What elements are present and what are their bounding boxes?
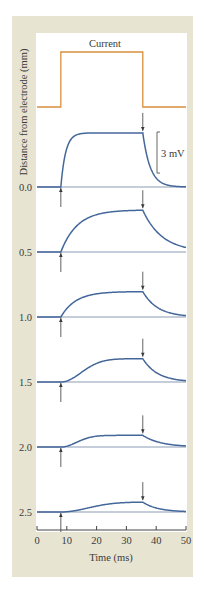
x-tick-label: 50 [181, 535, 192, 546]
scale-bar-label: 3 mV [161, 148, 185, 159]
y-tick-label: 2.0 [19, 442, 32, 453]
chart: Current 0.00.51.01.52.02.5 3 mV 01020304… [0, 0, 205, 598]
x-tick-label: 20 [91, 535, 102, 546]
y-tick-labels: 0.00.51.01.52.02.5 [19, 182, 32, 518]
y-tick-label: 1.0 [19, 312, 32, 323]
plot-area [36, 33, 187, 532]
y-tick-label: 0.5 [19, 247, 32, 258]
x-axis-label: Time (ms) [89, 552, 133, 564]
y-tick-label: 1.5 [19, 377, 32, 388]
x-tick-label: 10 [62, 535, 73, 546]
x-tick-label: 40 [151, 535, 162, 546]
y-axis-label: Distance from electrode (mm) [18, 48, 30, 175]
y-tick-label: 0.0 [19, 182, 32, 193]
y-tick-label: 2.5 [19, 507, 32, 518]
x-tick-label: 30 [121, 535, 132, 546]
x-tick-label: 0 [34, 535, 39, 546]
current-label: Current [89, 38, 121, 49]
